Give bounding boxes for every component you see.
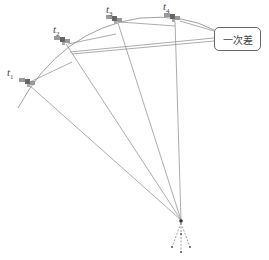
label-t3: t3: [106, 4, 113, 18]
single-difference-callout: 一次差: [214, 27, 261, 51]
orbit-arc: [18, 17, 214, 108]
callout-text: 一次差: [223, 32, 253, 47]
label-t1: t1: [7, 67, 14, 81]
label-t2: t2: [53, 24, 60, 38]
receiver-tripod-icon: [171, 219, 191, 253]
satellite-icon-t1: [19, 78, 35, 87]
label-t4: t4: [163, 1, 170, 15]
